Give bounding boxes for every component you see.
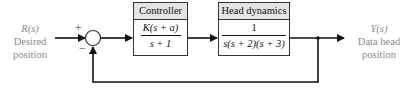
input-symbol: R(s) (8, 22, 52, 35)
controller-numerator: K(s + a) (134, 21, 187, 34)
controller-transfer-function: K(s + a) s + 1 (134, 21, 187, 50)
input-desc-line1: Desired (8, 35, 52, 48)
output-label: Y(s) Data head position (350, 22, 408, 61)
plus-sign: + (75, 21, 81, 33)
head-dynamics-title: Head dynamics (219, 3, 289, 20)
controller-denominator: s + 1 (134, 37, 187, 50)
controller-title: Controller (134, 3, 187, 20)
head-dynamics-block: Head dynamics 1 s(s + 2)(s + 3) (218, 2, 290, 56)
controller-block: Controller K(s + a) s + 1 (133, 2, 188, 56)
summing-junction (86, 31, 101, 46)
head-dynamics-numerator: 1 (219, 21, 289, 34)
head-dynamics-denominator: s(s + 2)(s + 3) (219, 37, 289, 50)
minus-sign: − (79, 42, 85, 54)
input-desc-line2: position (8, 48, 52, 61)
output-desc-line1: Data head (350, 35, 408, 48)
output-desc-line2: position (350, 48, 408, 61)
output-symbol: Y(s) (350, 22, 408, 35)
head-dynamics-transfer-function: 1 s(s + 2)(s + 3) (219, 21, 289, 50)
input-label: R(s) Desired position (8, 22, 52, 61)
